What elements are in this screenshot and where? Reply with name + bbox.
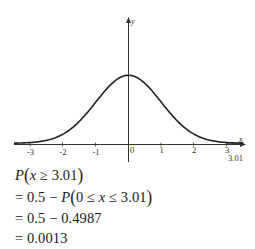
tick-label: -1 [93, 147, 100, 157]
lower-bound: 0 ≤ [76, 189, 99, 205]
tick-label: 2 [192, 145, 196, 155]
solution-line-1: P(x ≥ 3.01) [15, 166, 83, 183]
solution-line-3: = 0.5 − 0.4987 [15, 211, 102, 226]
upper-bound: ≤ 3.01 [105, 189, 146, 205]
tick-label: 1 [160, 145, 164, 155]
tick-label: -3 [27, 147, 34, 157]
prob-symbol: P [15, 167, 24, 183]
solution-line-2: = 0.5 − P(0 ≤ x ≤ 3.01) [15, 188, 152, 205]
y-axis-label: y [130, 17, 135, 26]
expression-prefix: = 0.5 − P [15, 189, 70, 205]
relation: ≥ 3.01 [36, 167, 77, 183]
tick-label: -2 [60, 147, 67, 157]
threshold-label: 3.01 [228, 153, 243, 163]
x-axis-label: x [238, 135, 243, 144]
tick-label: 0 [130, 145, 134, 155]
normal-distribution-chart: -3 -2 -1 0 1 2 3 3.01 y x [0, 0, 255, 165]
solution-line-4: = 0.0013 [15, 231, 67, 246]
